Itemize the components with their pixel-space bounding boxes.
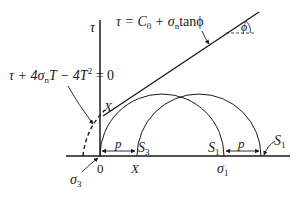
s1-right-label: S1 <box>274 133 286 150</box>
linear-eq-pointer <box>202 31 209 44</box>
origin-label: 0 <box>97 161 104 176</box>
parabolic-envelope-equation: τ + 4σnT − 4T2 = 0 <box>9 66 114 85</box>
p-label-left: p <box>114 136 122 151</box>
x-axis-label: X <box>130 161 140 176</box>
sigma3-pointer <box>82 158 98 172</box>
s1-left-label: S1 <box>208 140 220 157</box>
tau-axis-label: τ <box>90 20 96 35</box>
sigma3-label: σ3 <box>70 172 82 189</box>
s3-label: S3 <box>138 140 150 157</box>
sigma1-label: σ1 <box>217 161 228 178</box>
parabolic-envelope-dashed <box>83 110 105 156</box>
parabolic-eq-pointer <box>68 86 93 124</box>
tangent-point-x-label: X <box>103 99 113 114</box>
p-label-right: p <box>237 136 245 151</box>
mohr-diagram: τ τ = C0 + σntanϕ ϕ τ + 4σnT − 4T2 = 0 X… <box>0 0 301 199</box>
phi-angle-label: ϕ <box>241 20 247 34</box>
linear-envelope-equation: τ = C0 + σntanϕ <box>116 14 204 31</box>
